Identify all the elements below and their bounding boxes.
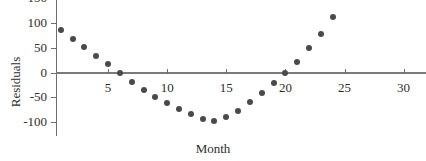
y-axis-tick-label: 0	[0, 66, 47, 79]
data-point	[141, 87, 147, 93]
x-axis-tick	[226, 69, 227, 74]
x-axis-tick	[404, 69, 405, 74]
data-point	[223, 114, 229, 120]
data-point	[81, 44, 87, 50]
data-point	[259, 90, 265, 96]
data-point	[164, 100, 170, 106]
data-point	[235, 108, 241, 114]
plot-area: 150100500-50-10051015202530	[0, 0, 426, 161]
x-axis-tick-label: 10	[161, 81, 174, 94]
data-point	[176, 106, 182, 112]
data-point	[318, 31, 324, 37]
y-axis-tick-label: -100	[0, 115, 47, 128]
y-axis-line	[56, 0, 57, 136]
x-axis-tick-label: 30	[397, 81, 410, 94]
data-point	[247, 99, 253, 105]
y-axis-tick	[51, 97, 56, 98]
x-axis-tick	[345, 69, 346, 74]
data-point	[117, 70, 123, 76]
data-point	[58, 27, 64, 33]
y-axis-tick-label: -50	[0, 90, 47, 103]
data-point	[70, 36, 76, 42]
y-axis-tick-label: 50	[0, 41, 47, 54]
data-point	[306, 45, 312, 51]
data-point	[129, 79, 135, 85]
x-axis-line	[56, 72, 426, 74]
x-axis-tick	[167, 69, 168, 74]
x-axis-tick-label: 25	[338, 81, 351, 94]
data-point	[294, 59, 300, 65]
data-point	[200, 116, 206, 122]
y-axis-tick	[51, 122, 56, 123]
x-axis-tick-label: 20	[279, 81, 292, 94]
data-point	[188, 111, 194, 117]
data-point	[211, 118, 217, 124]
x-axis-tick	[108, 69, 109, 74]
y-axis-tick	[51, 23, 56, 24]
data-point	[93, 53, 99, 59]
y-axis-tick-label: 150	[0, 0, 47, 4]
data-point	[330, 14, 336, 20]
x-axis-tick-label: 15	[220, 81, 233, 94]
x-axis-tick-label: 5	[105, 81, 112, 94]
y-axis-tick-label: 100	[0, 16, 47, 29]
data-point	[271, 80, 277, 86]
data-point	[152, 94, 158, 100]
y-axis-tick	[51, 48, 56, 49]
y-axis-tick	[51, 73, 56, 74]
residuals-scatter-chart: Residuals Month 150100500-50-10051015202…	[0, 0, 426, 161]
data-point	[105, 61, 111, 67]
data-point	[282, 70, 288, 76]
